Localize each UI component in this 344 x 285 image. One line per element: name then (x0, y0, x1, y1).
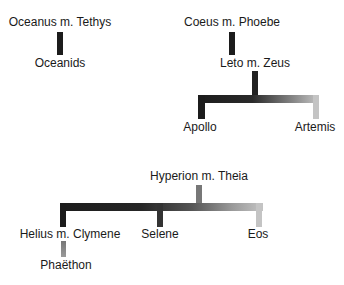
connector-helius-phaethon (61, 241, 66, 257)
node-eos: Eos (248, 227, 269, 241)
node-oceanus-tethys: Oceanus m. Tethys (9, 15, 112, 29)
node-coeus-phoebe: Coeus m. Phoebe (184, 15, 280, 29)
connector-leto-horizontal (198, 95, 319, 103)
connector-selene-leg (157, 203, 163, 227)
connector-leto-stem (252, 71, 258, 98)
connector-eos-leg (256, 203, 262, 227)
node-phaethon: Phaëthon (40, 258, 91, 272)
node-artemis: Artemis (295, 120, 336, 134)
node-hyperion-theia: Hyperion m. Theia (150, 169, 248, 183)
node-leto-zeus: Leto m. Zeus (220, 56, 290, 70)
connector-apollo-leg (198, 95, 205, 119)
node-selene: Selene (141, 227, 178, 241)
node-apollo: Apollo (183, 120, 216, 134)
connector-coeus-leto (229, 32, 235, 55)
connector-artemis-leg (313, 95, 319, 119)
node-oceanids: Oceanids (35, 56, 86, 70)
connector-oceanus-oceanids (57, 32, 63, 55)
connector-helius-leg (60, 203, 66, 227)
node-helius-clymene: Helius m. Clymene (20, 227, 121, 241)
